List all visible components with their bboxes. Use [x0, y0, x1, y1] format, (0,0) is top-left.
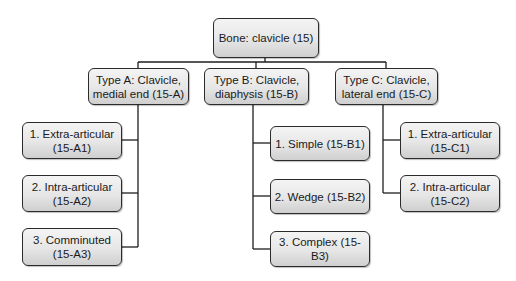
root-node-label: Bone: clavicle (15) — [219, 31, 314, 45]
root-node-clavicle: Bone: clavicle (15) — [213, 18, 319, 58]
group-c1-node: 1. Extra-articular (15-C1) — [400, 122, 500, 159]
group-b1-node: 1. Simple (15-B1) — [270, 126, 370, 161]
group-b3-label: 3. Complex (15-B3) — [271, 235, 369, 263]
group-c2-label: 2. Intra-articular (15-C2) — [410, 180, 491, 208]
group-b3-node: 3. Complex (15-B3) — [270, 231, 370, 267]
group-c1-label: 1. Extra-articular (15-C1) — [408, 127, 492, 155]
group-a2-node: 2. Intra-articular (15-A2) — [22, 175, 122, 212]
group-a1-label: 1. Extra-articular (15-A1) — [30, 127, 114, 155]
type-b-node: Type B: Clavicle, diaphysis (15-B) — [204, 68, 309, 105]
group-c2-node: 2. Intra-articular (15-C2) — [400, 175, 500, 212]
group-b2-node: 2. Wedge (15-B2) — [270, 179, 370, 214]
group-a3-label: 3. Comminuted (15-A3) — [33, 233, 111, 261]
group-a3-node: 3. Comminuted (15-A3) — [22, 228, 122, 266]
type-a-label: Type A: Clavicle, medial end (15-A) — [93, 73, 184, 101]
group-b1-label: 1. Simple (15-B1) — [275, 137, 364, 151]
type-b-label: Type B: Clavicle, diaphysis (15-B) — [214, 73, 300, 101]
group-a1-node: 1. Extra-articular (15-A1) — [22, 122, 122, 159]
group-a2-label: 2. Intra-articular (15-A2) — [32, 180, 113, 208]
group-b2-label: 2. Wedge (15-B2) — [275, 190, 366, 204]
type-a-node: Type A: Clavicle, medial end (15-A) — [88, 68, 189, 105]
type-c-label: Type C: Clavicle, lateral end (15-C) — [342, 73, 431, 101]
type-c-node: Type C: Clavicle, lateral end (15-C) — [335, 68, 438, 105]
